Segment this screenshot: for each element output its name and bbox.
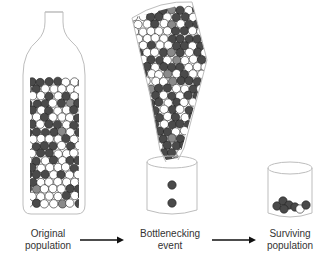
label-surviving: Surviving population xyxy=(252,228,319,252)
bottleneck-cup xyxy=(147,156,197,214)
original-bottle xyxy=(19,12,92,214)
bottleneck-diagram xyxy=(0,0,319,266)
label-bottleneck: Bottlenecking event xyxy=(128,228,212,252)
label-original: Original population xyxy=(8,228,88,252)
tilted-bottle xyxy=(125,2,214,165)
arrow-2 xyxy=(212,237,256,244)
surviving-cup xyxy=(268,162,312,217)
